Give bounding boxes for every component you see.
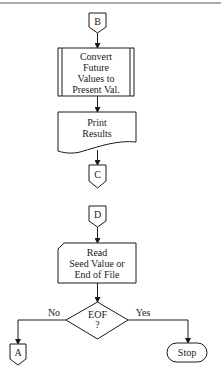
document-print-results: Print Results xyxy=(58,112,136,153)
arrow-no-branch xyxy=(18,320,66,342)
yes-label: Yes xyxy=(136,307,151,318)
process-line-2: Future xyxy=(83,62,110,73)
connector-d-label: D xyxy=(94,209,101,220)
terminator-stop: Stop xyxy=(167,343,207,362)
print-line-2: Results xyxy=(82,128,112,139)
connector-d: D xyxy=(89,206,106,227)
read-line-1: Read xyxy=(87,247,108,258)
print-line-1: Print xyxy=(87,117,107,128)
connector-a: A xyxy=(10,344,26,365)
connector-c: C xyxy=(89,165,106,188)
stop-label: Stop xyxy=(178,347,196,358)
process-convert-values: Convert Future Values to Present Val. xyxy=(58,48,134,96)
flowchart: B Convert Future Values to Present Val. … xyxy=(0,0,221,371)
connector-b: B xyxy=(89,13,106,33)
process-line-4: Present Val. xyxy=(72,84,120,95)
read-line-3: End of File xyxy=(75,269,121,280)
input-read-seed-value: Read Seed Value or End of File xyxy=(58,243,136,283)
process-line-3: Values to xyxy=(78,73,115,84)
connector-b-label: B xyxy=(94,16,101,27)
process-line-1: Convert xyxy=(80,51,112,62)
read-line-2: Seed Value or xyxy=(69,258,125,269)
decision-line-2: ? xyxy=(95,319,100,330)
connector-c-label: C xyxy=(94,169,101,180)
no-label: No xyxy=(48,307,60,318)
connector-a-label: A xyxy=(14,347,22,358)
arrow-yes-branch xyxy=(128,320,188,341)
decision-eof: EOF ? xyxy=(66,302,128,339)
